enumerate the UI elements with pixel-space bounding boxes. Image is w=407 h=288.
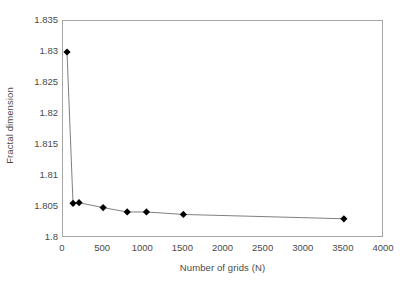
plot-area <box>62 20 383 237</box>
plot-series-svg <box>63 21 384 238</box>
fractal-dimension-chart: Fractal dimension 1.81.8051.811.8151.821… <box>0 0 407 288</box>
x-axis-title: Number of grids (N) <box>62 262 383 273</box>
data-point-marker <box>180 211 187 218</box>
series-line <box>67 52 344 219</box>
x-tick-label: 4000 <box>358 242 407 253</box>
data-point-marker <box>75 199 82 206</box>
data-point-marker <box>69 200 76 207</box>
data-point-marker <box>63 48 70 55</box>
data-point-marker <box>143 208 150 215</box>
data-point-marker <box>340 215 347 222</box>
data-point-marker <box>124 208 131 215</box>
series-markers <box>63 48 347 222</box>
data-point-marker <box>100 204 107 211</box>
